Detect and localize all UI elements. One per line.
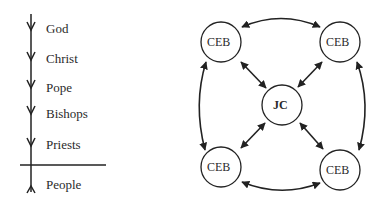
level-bishops: Bishops [46,107,88,120]
level-god: God [46,22,68,35]
node-label-ceb-2: CEB [326,36,349,48]
level-people: People [46,178,81,191]
node-label-jc: JC [273,99,288,111]
level-christ: Christ [46,52,78,65]
node-label-ceb-3: CEB [207,161,230,173]
hierarchy-line [27,14,35,193]
level-priests: Priests [46,138,81,151]
node-label-ceb-1: CEB [207,36,230,48]
level-pope: Pope [46,81,72,94]
node-label-ceb-4: CEB [326,164,349,176]
